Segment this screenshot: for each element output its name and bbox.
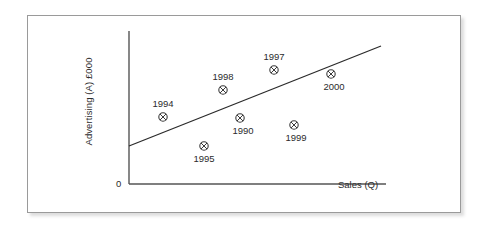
point-label-1995: 1995 [193, 153, 214, 164]
data-point-1997 [270, 66, 278, 74]
data-point-1995 [200, 142, 208, 150]
point-label-2000: 2000 [323, 81, 344, 92]
point-label-1990: 1990 [232, 125, 253, 136]
data-point-1994 [159, 113, 167, 121]
data-point-2000 [327, 70, 335, 78]
data-point-1999 [290, 121, 298, 129]
origin-label: 0 [116, 178, 121, 189]
point-label-1999: 1999 [285, 132, 306, 143]
figure-panel: 1994 1995 1990 1998 1997 1999 2000 Adver… [27, 15, 461, 213]
plot-area: 1994 1995 1990 1998 1997 1999 2000 Adver… [28, 16, 462, 214]
y-axis-title: Advertising (A) £000 [83, 32, 94, 172]
point-label-1998: 1998 [212, 71, 233, 82]
data-point-1998 [219, 86, 227, 94]
x-axis-title: Sales (Q) [338, 179, 378, 190]
data-point-1990 [236, 114, 244, 122]
point-label-1997: 1997 [263, 51, 284, 62]
scatter-plot-figure: 1994 1995 1990 1998 1997 1999 2000 Adver… [0, 0, 494, 231]
point-label-1994: 1994 [152, 98, 173, 109]
